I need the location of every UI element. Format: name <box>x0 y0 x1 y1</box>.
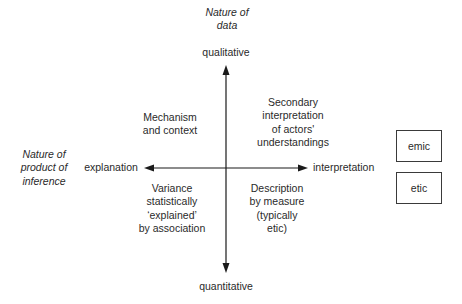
quadrant-top-left: Mechanism and context <box>134 111 206 138</box>
vertical-axis-title: Nature of data <box>196 6 258 33</box>
explanation-label: explanation <box>78 161 144 174</box>
arrow-left-icon <box>144 165 154 172</box>
interpretation-label: interpretation <box>313 161 389 174</box>
arrow-down-icon <box>223 263 230 273</box>
quadrant-bottom-left: Variance statistically ‘explained’ by as… <box>134 182 210 235</box>
emic-box: emic <box>396 130 442 162</box>
quadrant-bottom-right: Description by measure (typically etic) <box>246 182 308 235</box>
quantitative-label: quantitative <box>181 280 271 293</box>
arrow-right-icon <box>298 165 308 172</box>
etic-label: etic <box>411 182 427 194</box>
etic-box: etic <box>396 172 442 204</box>
arrow-up-icon <box>223 65 230 75</box>
quadrant-top-right: Secondary interpretation of actors' unde… <box>244 96 342 149</box>
emic-label: emic <box>408 140 430 152</box>
qualitative-label: qualitative <box>186 46 266 59</box>
horizontal-axis-title: Nature of product of inference <box>8 148 80 188</box>
